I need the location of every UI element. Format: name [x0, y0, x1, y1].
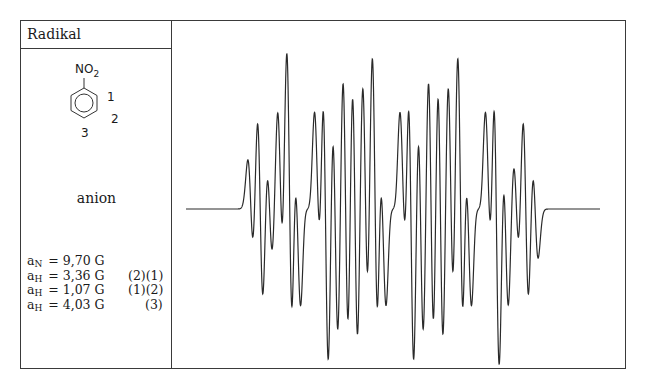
coupling-value: = 9,70 G: [48, 253, 104, 268]
coupling-row-h: aH = 1,07 G (1)(2): [27, 283, 105, 298]
radical-type-label: anion: [21, 190, 172, 206]
position-label-2: 2: [111, 112, 119, 126]
coupling-row-h: aH = 4,03 G (3): [27, 298, 105, 313]
esr-spectrum: [172, 21, 625, 367]
coupling-value: = 1,07 G: [48, 282, 104, 297]
coupling-symbol: aH: [27, 298, 42, 316]
aromatic-circle: [75, 94, 93, 112]
results-table: Radikal NO2 1 2 3 anion aN = 9,70 G aH =…: [20, 20, 626, 369]
position-label-3: 3: [81, 126, 89, 140]
coupling-value: = 4,03 G: [48, 297, 104, 312]
coupling-positions: (1)(2): [128, 283, 163, 298]
spectrum-cell: [172, 21, 625, 368]
coupling-row-h: aH = 3,36 G (2)(1): [27, 269, 105, 284]
nitro-group-label: NO2: [75, 62, 99, 79]
nitrobenzene-structure: NO2 1 2 3: [51, 57, 151, 167]
column-header: Radikal: [21, 21, 171, 49]
coupling-constants: aN = 9,70 G aH = 3,36 G (2)(1) aH = 1,07…: [27, 254, 105, 312]
coupling-positions: (3): [145, 298, 163, 313]
position-label-1: 1: [107, 90, 115, 104]
coupling-positions: (2)(1): [128, 269, 163, 284]
coupling-row-n: aN = 9,70 G: [27, 254, 105, 269]
radical-column: Radikal NO2 1 2 3 anion aN = 9,70 G aH =…: [21, 21, 172, 368]
coupling-value: = 3,36 G: [48, 268, 104, 283]
spectrum-trace: [186, 54, 600, 364]
header-label: Radikal: [27, 26, 81, 42]
